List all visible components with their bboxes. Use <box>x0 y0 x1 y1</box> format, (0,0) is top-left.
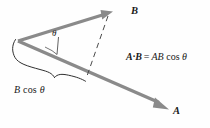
dot-product-figure: B A θ B cos θ A·B=AB cos θ <box>0 0 210 128</box>
vector-b-arrow <box>18 10 113 41</box>
dot-product-equation: A·B=AB cos θ <box>126 52 187 62</box>
angle-theta-label: θ <box>52 29 56 38</box>
equation-theta: θ <box>182 51 187 62</box>
projection-label: B cos θ <box>14 85 45 95</box>
projection-label-cos: cos <box>23 84 37 95</box>
projection-dashed-line <box>87 16 108 76</box>
projection-label-theta: θ <box>40 84 45 95</box>
projection-brace <box>13 40 86 82</box>
equation-vector-a: A <box>126 51 133 62</box>
equation-vector-b: B <box>135 51 142 62</box>
equation-cos: cos <box>166 51 179 62</box>
vector-b-label: B <box>131 6 138 17</box>
equation-ab: AB <box>151 51 163 62</box>
vector-a-label: A <box>173 106 180 117</box>
